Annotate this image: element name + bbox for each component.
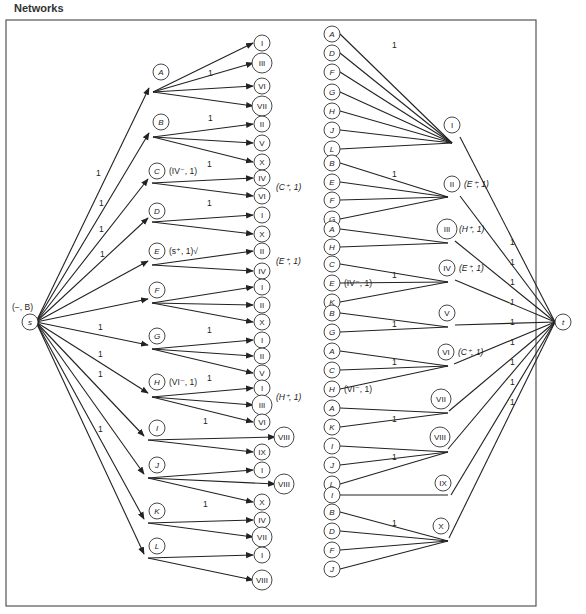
node-left-E: E: [149, 243, 165, 259]
svg-text:II: II: [450, 180, 454, 189]
edge: [148, 523, 253, 537]
edge: [153, 86, 253, 92]
svg-text:III: III: [259, 59, 266, 68]
svg-text:D: D: [154, 207, 160, 216]
edge: [148, 555, 253, 558]
node-target-IV: IV: [254, 263, 270, 279]
edge: [340, 197, 448, 200]
node-target-V: V: [254, 135, 270, 151]
edge: [148, 470, 253, 478]
node-target-III: III: [252, 395, 272, 415]
node-annotation: (IV⁻, 1): [169, 166, 197, 176]
edge: [340, 197, 448, 219]
s-edge-label: 1: [98, 369, 103, 379]
svg-text:VI: VI: [258, 82, 266, 91]
edge: [340, 229, 448, 243]
svg-text:X: X: [259, 230, 265, 239]
svg-text:I: I: [261, 466, 263, 475]
node-right-VI: VI: [438, 344, 454, 360]
svg-text:H: H: [329, 385, 335, 394]
svg-text:s: s: [28, 318, 32, 327]
node-target-VI: VI: [254, 414, 270, 430]
node-right-source-B: B: [324, 305, 340, 321]
node-left-G: G: [149, 328, 165, 344]
node-right-source-B: B: [324, 155, 340, 171]
svg-text:VIII: VIII: [278, 480, 290, 489]
target-annotation: (E⁺, 1): [276, 256, 301, 266]
node-target-I: I: [254, 380, 270, 396]
svg-text:D: D: [329, 527, 335, 536]
node-left-D: D: [149, 203, 165, 219]
edge: [340, 408, 448, 413]
svg-text:VIII: VIII: [434, 433, 446, 442]
node-target-VIII: VIII: [274, 474, 294, 494]
node-right-source-I: I: [324, 438, 340, 454]
edge: [36, 88, 149, 322]
node-right-III: III: [437, 219, 457, 239]
edge-label: 1: [208, 68, 213, 78]
t-edge-label: 1: [510, 337, 515, 347]
node-right-source-A: A: [324, 26, 340, 42]
edge: [148, 478, 253, 502]
svg-text:I: I: [261, 211, 263, 220]
svg-text:VI: VI: [258, 192, 266, 201]
edges-layer: [36, 34, 555, 580]
svg-text:E: E: [329, 279, 335, 288]
right-annotation: (E⁺; 1): [464, 179, 489, 189]
svg-text:II: II: [260, 120, 264, 129]
s-edge-label: 1: [98, 424, 103, 434]
svg-text:V: V: [444, 309, 450, 318]
node-right-source-D: D: [324, 523, 340, 539]
node-target-VI: VI: [254, 188, 270, 204]
node-right-source-J: J: [324, 561, 340, 577]
edge-label: 1: [392, 518, 397, 528]
edge-label: 1: [392, 40, 397, 50]
node-target-I: I: [254, 207, 270, 223]
edge: [455, 280, 555, 322]
svg-text:VII: VII: [257, 533, 267, 542]
node-target-II: II: [254, 116, 270, 132]
edge: [152, 251, 253, 265]
svg-text:G: G: [329, 328, 335, 337]
node-target-III: III: [252, 53, 272, 73]
edge-label: 1: [392, 270, 397, 280]
svg-text:E: E: [154, 247, 160, 256]
svg-text:I: I: [451, 121, 453, 130]
svg-text:A: A: [328, 404, 334, 413]
node-right-VIII: VIII: [430, 427, 450, 447]
edge: [153, 137, 253, 143]
node-right-IV: IV: [439, 260, 455, 276]
edge: [148, 520, 253, 523]
edge: [152, 303, 253, 322]
node-left-C: C: [149, 163, 165, 179]
node-target-IX: IX: [254, 444, 270, 460]
target-annotation: (C⁺, 1): [276, 182, 301, 192]
svg-text:E: E: [329, 178, 335, 187]
svg-text:B: B: [329, 508, 335, 517]
svg-text:B: B: [329, 309, 335, 318]
target-annotation: (H⁺, 1): [276, 392, 301, 402]
right-annotation: (C⁺, 1): [458, 347, 483, 357]
node-annotation: (VI⁻, 1): [169, 377, 197, 387]
svg-text:VII: VII: [257, 102, 267, 111]
edge: [340, 53, 452, 143]
node-target-I: I: [254, 35, 270, 51]
edge: [152, 178, 253, 183]
svg-text:VI: VI: [442, 348, 450, 357]
node-target-VI: VI: [254, 78, 270, 94]
t-edge-label: 1: [510, 277, 515, 287]
node-left-A: A: [153, 64, 169, 80]
node-right-source-H: H: [324, 381, 340, 397]
edge: [340, 143, 452, 149]
s-edge-label: 1: [99, 224, 104, 234]
svg-text:X: X: [259, 318, 265, 327]
edge: [460, 196, 555, 322]
svg-text:III: III: [259, 401, 266, 410]
svg-text:I: I: [261, 551, 263, 560]
edge-label: 1: [207, 159, 212, 169]
svg-text:V: V: [259, 139, 265, 148]
svg-text:G: G: [154, 332, 160, 341]
edge: [152, 340, 253, 349]
node-right-source-K: K: [324, 419, 340, 435]
t-edge-label: 1: [510, 317, 515, 327]
